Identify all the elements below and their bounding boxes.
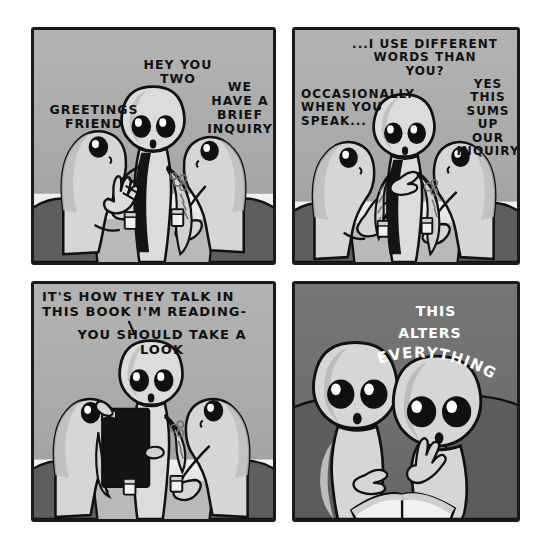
caption-greetings-friend: GREETINGS FRIEND <box>38 103 150 131</box>
caption-this: THIS <box>399 304 473 320</box>
drinking-cup-left-group <box>378 221 389 237</box>
panel-3-artwork <box>34 284 273 519</box>
caption-alters: ALTERS <box>383 326 477 342</box>
drinking-cup-right-group <box>171 476 183 492</box>
comic-panel-1: GREETINGS FRIEND HEY YOU TWO WE HAVE A B… <box>31 27 276 265</box>
caption-yes-this-sums-up-our-inquiry: YES THIS SUMS UP OUR INQUIRY <box>455 78 520 159</box>
comic-panel-4: THIS ALTERS EVERYTHING <box>292 281 520 522</box>
caption-we-have-a-brief-inquiry: WE HAVE A BRIEF INQUIRY <box>204 80 276 136</box>
drinking-cup-left-group <box>124 479 136 495</box>
caption-i-use-different-words: ...I USE DIFFERENT WORDS THAN YOU? <box>341 38 509 78</box>
comic-panel-3: IT'S HOW THEY TALK IN THIS BOOK I'M READ… <box>31 281 276 522</box>
caption-everything-text: EVERYTHING <box>375 346 500 383</box>
comic-panel-2: ...I USE DIFFERENT WORDS THAN YOU? OCCAS… <box>292 27 520 265</box>
caption-everything: EVERYTHING <box>375 346 520 406</box>
drinking-cup-right-group <box>422 218 433 234</box>
drinking-cup-right-group <box>172 209 184 226</box>
comic-page: GREETINGS FRIEND HEY YOU TWO WE HAVE A B… <box>0 0 551 549</box>
drinking-cup-left-group <box>125 212 137 229</box>
caption-occasionally-when-you-speak: OCCASIONALLY WHEN YOU SPEAK... <box>301 88 393 128</box>
caption-you-should-take-a-look: YOU SHOULD TAKE A LOOK <box>56 328 268 357</box>
caption-its-how-they-talk: IT'S HOW THEY TALK IN THIS BOOK I'M READ… <box>42 290 272 319</box>
